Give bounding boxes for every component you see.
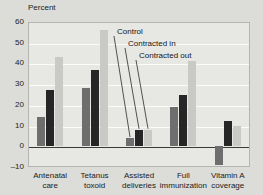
bar <box>100 30 108 146</box>
bar <box>224 121 232 146</box>
bar <box>179 95 187 147</box>
y-tick-label: 20 <box>0 101 24 109</box>
y-tick-label: 0 <box>0 142 24 150</box>
y-tick-label: 30 <box>0 80 24 88</box>
series-annotation-label: Contracted out <box>139 51 191 60</box>
bar <box>91 70 99 147</box>
bar <box>188 61 196 146</box>
bar <box>233 126 241 147</box>
y-tick-label: –10 <box>0 163 24 171</box>
y-tick-label: 10 <box>0 122 24 130</box>
y-axis-title: Percent <box>28 3 56 12</box>
y-tick-label: 60 <box>0 18 24 26</box>
bar <box>46 90 54 146</box>
bar <box>144 130 152 147</box>
bar <box>55 57 63 146</box>
x-group-label-line: coverage <box>202 181 254 191</box>
y-tick-label: 40 <box>0 59 24 67</box>
bar <box>82 88 90 146</box>
x-group-label: Vitamin Acoverage <box>202 171 254 190</box>
bar <box>215 146 223 165</box>
bar <box>37 117 45 146</box>
chart-screenshot: Percent –100102030405060 AntenatalcareTe… <box>0 0 263 195</box>
bar <box>135 130 143 147</box>
series-annotation-label: Contracted in <box>128 39 176 48</box>
series-annotation-label: Control <box>117 27 143 36</box>
x-group-label-line: Vitamin A <box>202 171 254 181</box>
bar <box>170 107 178 146</box>
bar <box>126 138 134 146</box>
y-tick-label: 50 <box>0 39 24 47</box>
